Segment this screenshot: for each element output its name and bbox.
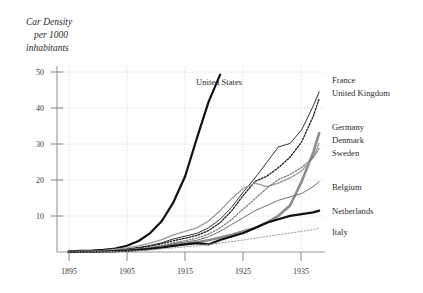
y-axis-labels: 50 40 30 20 10 (36, 68, 44, 221)
series-line-united-states (69, 75, 220, 252)
chart-title-line-2: per 1000 (33, 30, 68, 40)
chart-title: Car Density per 1000 inhabitants (26, 17, 73, 53)
x-tick-label-1935: 1935 (293, 267, 309, 276)
y-tick-label-40: 40 (36, 104, 44, 113)
series-label-germany: Germany (332, 122, 365, 132)
car-density-chart: Car Density per 1000 inhabitants (0, 0, 423, 293)
series-line-denmark (69, 144, 320, 252)
y-tick-label-20: 20 (36, 176, 44, 185)
x-tick-label-1915: 1915 (177, 267, 193, 276)
series-line-belgium (69, 181, 320, 251)
series-label-denmark: Denmark (332, 135, 365, 145)
y-tick-label-10: 10 (36, 212, 44, 221)
series-line-france (69, 92, 320, 252)
series-label-belgium: Belgium (332, 182, 362, 192)
x-tick-label-1925: 1925 (235, 267, 251, 276)
y-tick-label-50: 50 (36, 68, 44, 77)
x-tick-label-1895: 1895 (61, 267, 77, 276)
y-tick-label-30: 30 (36, 140, 44, 149)
series-label-sweden: Sweden (332, 148, 360, 158)
series-line-italy (69, 228, 320, 252)
x-axis-labels: 1895 1905 1915 1925 1935 (61, 267, 309, 276)
series-label-italy: Italy (332, 227, 348, 237)
series-layer (69, 75, 320, 252)
series-label-france: France (332, 75, 356, 85)
series-label-united-kingdom: United Kingdom (332, 88, 390, 98)
x-tick-label-1905: 1905 (119, 267, 135, 276)
series-label-netherlands: Netherlands (332, 206, 374, 216)
series-labels: United States France United Kingdom Germ… (196, 75, 390, 237)
chart-title-line-3: inhabitants (26, 43, 69, 53)
series-label-united-states: United States (196, 77, 243, 87)
chart-title-line-1: Car Density (26, 17, 73, 27)
